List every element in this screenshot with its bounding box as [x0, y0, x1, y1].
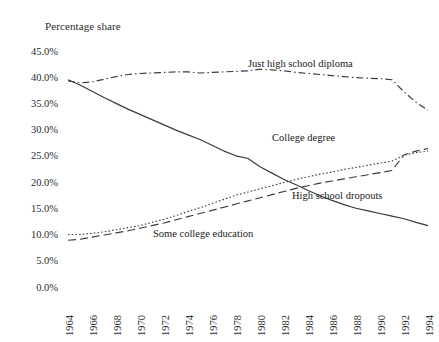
series-label-some-college-education: Some college education [153, 228, 253, 239]
series-line-just-high-school-diploma [68, 69, 428, 110]
series-line-high-school-dropouts [68, 80, 428, 226]
series-label-high-school-dropouts: High school dropouts [292, 190, 382, 201]
plot-lines [0, 0, 439, 342]
series-label-just-high-school-diploma: Just high school diploma [248, 58, 353, 69]
series-label-college-degree: College degree [272, 132, 335, 143]
chart-container: Percentage share 0.0%5.0%10.0%15.0%20.0%… [0, 0, 439, 342]
